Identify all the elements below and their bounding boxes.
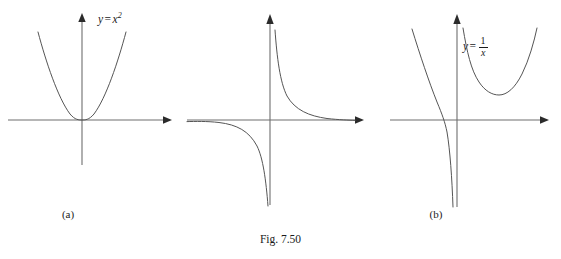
panel-c-plot — [365, 0, 561, 230]
curve-hyperbola-positive-branch — [275, 30, 355, 120]
panel-sublabel-a: (a) — [48, 208, 88, 220]
figure-caption: Fig. 7.50 — [0, 233, 561, 245]
curve-c-left-branch — [412, 29, 453, 207]
panel-b: y=1x (b) — [187, 0, 365, 230]
x-axis-arrow-c — [540, 116, 549, 123]
x-axis-arrow-a — [163, 116, 172, 123]
curve-hyperbola-negative-branch — [187, 121, 268, 206]
curve-c-right-branch — [463, 28, 537, 95]
panel-a-plot — [0, 0, 187, 230]
figure-7-50: y=x2 (a) y=1x (b) — [0, 0, 561, 259]
y-axis-arrow-a — [78, 13, 85, 22]
x-axis-arrow-b — [355, 116, 364, 123]
equation-label-a: y=x2 — [98, 11, 122, 25]
y-axis-arrow-c — [453, 14, 460, 24]
panel-c: y=x2+1x (c) — [365, 0, 561, 230]
y-axis-arrow-b — [266, 14, 273, 24]
panel-b-plot — [187, 0, 365, 230]
panel-a: y=x2 (a) — [0, 0, 187, 230]
